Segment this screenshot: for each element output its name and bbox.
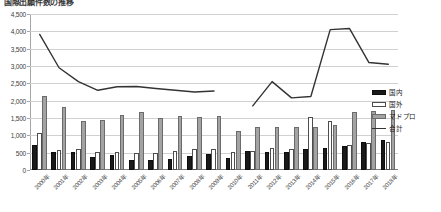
y-axis-tick-label: 2,500: [11, 80, 26, 87]
y-axis-tick-label: 1,500: [11, 115, 26, 122]
y-axis-tick-label: 3,500: [11, 45, 26, 52]
legend-item-madopro[interactable]: マドプロ: [372, 110, 440, 122]
legend-swatch-goukei-icon: [372, 126, 386, 131]
x-axis-tick-label: 2009年: [206, 172, 225, 191]
y-axis-tick: [27, 170, 30, 171]
plot-area: 05001,0001,5002,0002,5003,0003,5004,0004…: [30, 14, 398, 170]
y-axis-tick-label: 500: [16, 149, 26, 156]
y-axis-tick-label: 0: [23, 167, 26, 174]
x-axis-tick-label: 2017年: [361, 172, 380, 191]
y-axis-tick-label: 2,000: [11, 97, 26, 104]
x-axis-tick-label: 2001年: [51, 172, 70, 191]
total-line-series: [30, 14, 398, 170]
total-line-segment-0: [40, 34, 214, 92]
x-axis-tick-label: 2018年: [380, 172, 399, 191]
legend-item-kokugai[interactable]: 国外: [372, 98, 440, 110]
x-axis-tick-label: 2002年: [70, 172, 89, 191]
x-axis-tick-label: 2010年: [225, 172, 244, 191]
legend-label: マドプロ: [389, 111, 416, 121]
y-axis-tick-label: 4,500: [11, 11, 26, 18]
y-axis-tick-label: 1,000: [11, 132, 26, 139]
y-axis-tick-label: 3,000: [11, 63, 26, 70]
x-axis-tick-label: 2016年: [342, 172, 361, 191]
x-axis-tick-label: 2003年: [90, 172, 109, 191]
chart-root: 国際出願件数の推移 05001,0001,5002,0002,5003,0003…: [0, 0, 441, 212]
x-axis-tick-label: 2012年: [264, 172, 283, 191]
x-axis-tick-label: 2000年: [32, 172, 51, 191]
chart-title: 国際出願件数の推移: [4, 0, 73, 7]
total-line-segment-1: [253, 29, 389, 106]
legend-item-kokunai[interactable]: 国内: [372, 86, 440, 98]
x-axis-tick-label: 2013年: [283, 172, 302, 191]
x-axis-tick-label: 2004年: [109, 172, 128, 191]
x-axis-tick-label: 2006年: [148, 172, 167, 191]
x-axis-tick-label: 2014年: [303, 172, 322, 191]
x-axis-tick-label: 2005年: [129, 172, 148, 191]
x-axis-tick-label: 2007年: [167, 172, 186, 191]
legend-item-goukei[interactable]: 合計: [372, 122, 440, 134]
x-axis-tick-label: 2015年: [322, 172, 341, 191]
legend-swatch-kokugai-icon: [372, 102, 386, 107]
x-axis-tick-label: 2008年: [187, 172, 206, 191]
legend-label: 合計: [389, 123, 403, 133]
legend-label: 国内: [389, 87, 403, 97]
x-axis-tick-label: 2011年: [245, 172, 264, 191]
legend-swatch-kokunai-icon: [372, 90, 386, 95]
legend-label: 国外: [389, 99, 403, 109]
y-axis-tick-label: 4,000: [11, 28, 26, 35]
chart-legend: 国内国外マドプロ合計: [372, 86, 440, 134]
legend-swatch-madopro-icon: [372, 114, 386, 119]
x-axis-labels: 2000年2001年2002年2003年2004年2005年2006年2007年…: [30, 172, 398, 212]
